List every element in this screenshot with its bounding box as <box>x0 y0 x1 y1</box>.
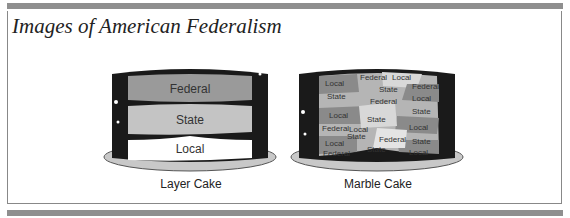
marble-label: Local <box>412 94 431 103</box>
marble-label: Federal <box>412 82 439 91</box>
marble-label: Local <box>325 79 344 88</box>
figure-title: Images of American Federalism <box>12 14 282 39</box>
marble-label: Local <box>329 111 348 120</box>
layer-cake-illustration: Federal State Local <box>100 62 280 182</box>
marble-label: Local <box>409 123 428 132</box>
layer-local-label: Local <box>176 142 205 156</box>
marble-cake-illustration: Local Federal Local State Federal State … <box>287 62 467 182</box>
marble-label: Federal <box>370 97 397 106</box>
top-rule <box>7 3 563 9</box>
layer-federal-label: Federal <box>170 82 211 96</box>
marble-label: State <box>379 85 398 94</box>
marble-label: Federal <box>379 135 406 144</box>
marble-label: State <box>347 132 366 141</box>
marble-label: State <box>367 115 386 124</box>
layer-state-label: State <box>176 113 204 127</box>
marble-label: Federal <box>360 73 387 82</box>
marble-label: Federal <box>323 149 350 158</box>
marble-label: State <box>367 145 386 154</box>
marble-cake-caption: Marble Cake <box>318 177 438 191</box>
marble-label: State <box>412 137 431 146</box>
marble-label: State <box>412 107 431 116</box>
bottom-rule <box>7 210 563 216</box>
marble-label: Local <box>409 148 428 157</box>
layer-cake-caption: Layer Cake <box>131 177 251 191</box>
marble-label: Local <box>392 73 411 82</box>
figure-box <box>7 11 562 204</box>
marble-label: Local <box>325 139 344 148</box>
marble-label: Federal <box>322 124 349 133</box>
marble-label: State <box>327 92 346 101</box>
